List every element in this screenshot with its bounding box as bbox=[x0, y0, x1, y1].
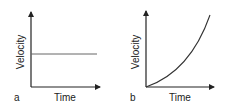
velocity-time-diagrams: Velocity Time a Velocity Time b bbox=[0, 0, 227, 109]
ylabel-a: Velocity bbox=[15, 35, 26, 69]
panel-a: Velocity Time a bbox=[14, 12, 100, 103]
panel-label-b: b bbox=[130, 92, 136, 103]
accelerating-curve bbox=[146, 15, 210, 87]
xlabel-b: Time bbox=[169, 92, 191, 103]
xlabel-a: Time bbox=[54, 92, 76, 103]
ylabel-b: Velocity bbox=[130, 35, 141, 69]
panel-b: Velocity Time b bbox=[130, 11, 214, 103]
panel-label-a: a bbox=[14, 92, 20, 103]
